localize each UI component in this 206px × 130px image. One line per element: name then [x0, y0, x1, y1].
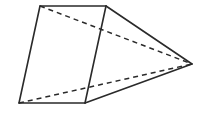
visible-edge-BP	[106, 6, 192, 64]
hidden-edges	[19, 6, 192, 103]
visible-edge-BC	[85, 6, 106, 103]
hidden-edge-DP	[19, 64, 192, 103]
geometric-solid-figure	[0, 0, 206, 130]
visible-edge-CP	[85, 64, 192, 103]
hidden-edge-AP	[40, 6, 192, 64]
visible-edge-DA	[19, 6, 40, 103]
